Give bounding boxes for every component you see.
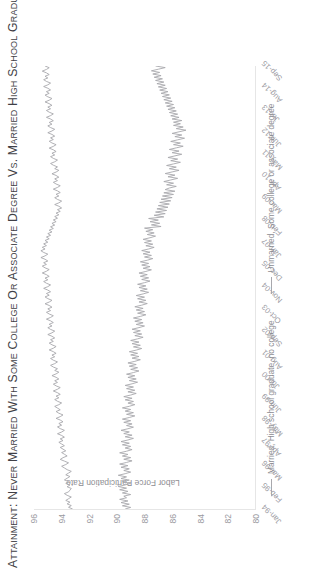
plot-area: Labor Force Participation Rate 808284868…: [34, 66, 256, 510]
x-tick-label: Jan-94: [260, 503, 283, 526]
series-lines: [34, 66, 255, 509]
legend-item[interactable]: Unmarried, Some college or associate deg…: [266, 104, 276, 295]
rotated-chart-canvas: Attainment: Never Married with Some Coll…: [0, 0, 329, 578]
legend-item[interactable]: Married, High school graduate, no colleg…: [266, 320, 276, 496]
y-tick-label: 90: [112, 514, 122, 524]
y-tick-label: 84: [196, 514, 206, 524]
title-ghost-line: [0, 8, 2, 568]
legend-label: Unmarried, Some college or associate deg…: [266, 104, 276, 273]
series-line: [118, 66, 186, 509]
y-tick-label: 92: [85, 514, 95, 524]
y-tick-label: 86: [168, 514, 178, 524]
x-tick-label: Sep-15: [260, 59, 284, 83]
legend-swatch: [271, 479, 272, 496]
y-tick-label: 88: [140, 514, 150, 524]
series-line: [41, 66, 73, 509]
legend: Married, High school graduate, no colleg…: [266, 104, 276, 496]
y-tick-label: 82: [223, 514, 233, 524]
y-tick-label: 96: [29, 514, 39, 524]
figure: Attainment: Never Married with Some Coll…: [0, 0, 329, 578]
x-tick-label: Aug-14: [260, 81, 284, 105]
y-tick-label: 94: [57, 514, 67, 524]
legend-swatch: [271, 277, 272, 294]
legend-label: Married, High school graduate, no colleg…: [266, 320, 276, 474]
chart-title: Attainment: Never Married with Some Coll…: [6, 0, 20, 578]
y-tick-label: 80: [251, 514, 261, 524]
